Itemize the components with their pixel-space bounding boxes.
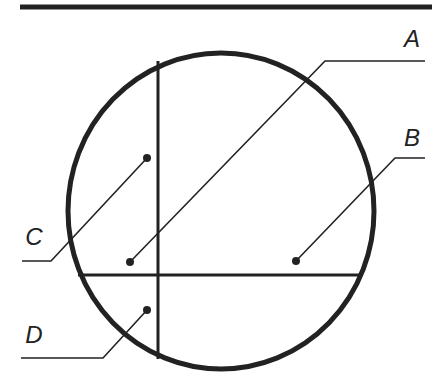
leader-C: C: [22, 154, 151, 261]
label-B: B: [404, 124, 420, 151]
sectioned-circle-diagram: A B C D: [0, 0, 441, 382]
leader-dot-B: [292, 257, 300, 265]
outer-circle: [68, 53, 374, 369]
label-D: D: [25, 321, 42, 348]
leader-dot-A: [126, 258, 134, 266]
label-A: A: [402, 25, 420, 52]
leader-line-A: [130, 61, 425, 262]
leader-D: D: [21, 306, 151, 358]
leader-dot-C: [143, 154, 151, 162]
label-C: C: [25, 223, 43, 250]
leader-dot-D: [143, 306, 151, 314]
leader-line-B: [296, 158, 425, 261]
